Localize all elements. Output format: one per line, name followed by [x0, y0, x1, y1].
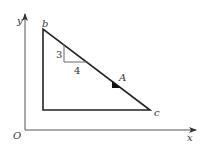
diagram-canvas: y x O b c A 3 4: [0, 0, 209, 154]
origin-label: O: [13, 130, 21, 141]
x-axis-label: x: [187, 132, 193, 143]
y-axis-label: y: [16, 15, 23, 26]
vertex-c-label: c: [154, 107, 160, 118]
run-label: 4: [74, 65, 80, 76]
vertex-b-label: b: [42, 18, 48, 29]
rise-label: 3: [56, 49, 62, 60]
point-a-label: A: [118, 72, 126, 83]
triangle: [43, 29, 150, 110]
